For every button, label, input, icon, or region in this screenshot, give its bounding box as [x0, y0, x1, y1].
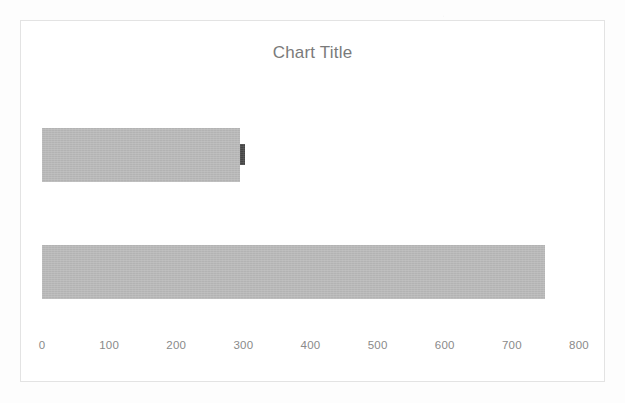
x-tick-label-700: 700: [502, 339, 522, 351]
x-axis-tick-labels: 0100200300400500600700800: [42, 339, 579, 361]
plot-area[interactable]: [42, 96, 579, 331]
x-tick-label-500: 500: [368, 339, 388, 351]
bar-group-category-2: [42, 96, 579, 331]
chart-frame[interactable]: Chart Title 0100200300400500600700800: [20, 20, 605, 382]
x-tick-label-100: 100: [99, 339, 119, 351]
x-tick-label-400: 400: [301, 339, 321, 351]
chart-title[interactable]: Chart Title: [21, 43, 604, 63]
x-tick-label-0: 0: [39, 339, 46, 351]
page-canvas: Chart Title 0100200300400500600700800: [0, 0, 625, 403]
bar-series-1-category-2[interactable]: [42, 245, 545, 299]
x-tick-label-300: 300: [233, 339, 253, 351]
x-tick-label-600: 600: [435, 339, 455, 351]
x-tick-label-800: 800: [569, 339, 589, 351]
x-tick-label-200: 200: [166, 339, 186, 351]
